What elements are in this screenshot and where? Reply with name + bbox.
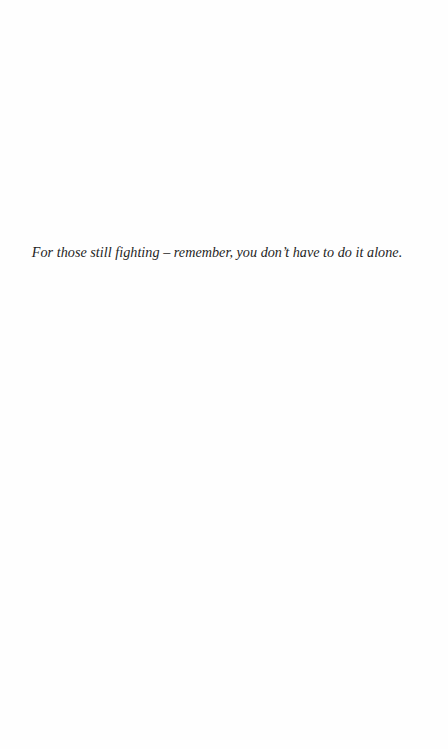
- dedication-text: For those still fighting – remember, you…: [0, 243, 434, 261]
- book-page: For those still fighting – remember, you…: [0, 0, 448, 749]
